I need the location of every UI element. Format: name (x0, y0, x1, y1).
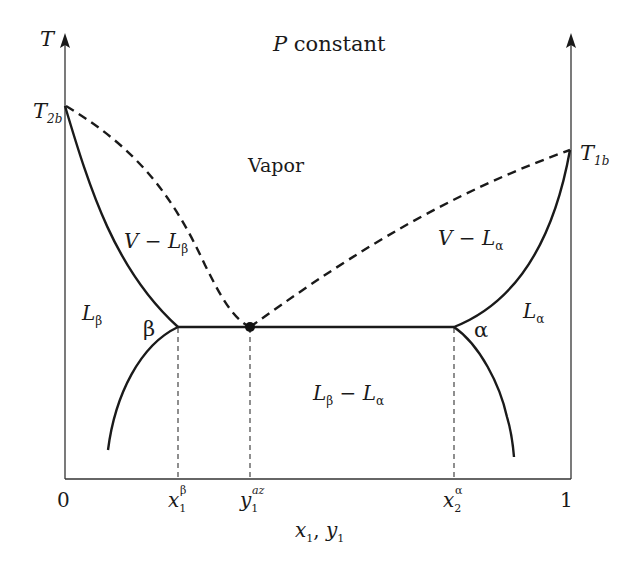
t2b-label: T2b (33, 99, 62, 126)
region-alpha-phase-label: α (474, 318, 488, 342)
x-tick-x1-beta-sup: β (180, 484, 186, 497)
region-beta-phase-label: β (143, 317, 155, 341)
region-v-lbeta-label: V − Lβ (124, 229, 188, 256)
x-tick-x2-alpha-sup: α (455, 484, 463, 497)
dew-line-alpha (250, 150, 570, 327)
region-lbeta-lalpha-label: Lβ − Lα (312, 381, 384, 408)
region-v-lalpha-label: V − Lα (438, 226, 503, 253)
region-lalpha-label: Lα (522, 299, 544, 326)
dew-line-beta (66, 106, 250, 327)
solubility-curve-alpha (454, 327, 514, 457)
phase-diagram: P constant T T2b T1b Vapor V − Lβ V − Lα… (0, 0, 632, 573)
x-axis-label: x1, y1 (295, 518, 344, 545)
x-tick-0: 0 (57, 488, 70, 512)
y-axis-label: T (40, 27, 56, 51)
region-lbeta-label: Lβ (81, 301, 102, 328)
x-tick-y1-az-sup: az (252, 484, 265, 497)
region-vapor-label: Vapor (247, 154, 305, 176)
diagram-title: P constant (272, 32, 386, 56)
axes (60, 33, 576, 479)
t1b-label: T1b (580, 141, 609, 168)
bubble-line-beta (65, 106, 178, 327)
azeotrope-point (245, 322, 255, 332)
x-tick-1: 1 (560, 488, 573, 512)
solubility-curve-beta (108, 327, 178, 450)
